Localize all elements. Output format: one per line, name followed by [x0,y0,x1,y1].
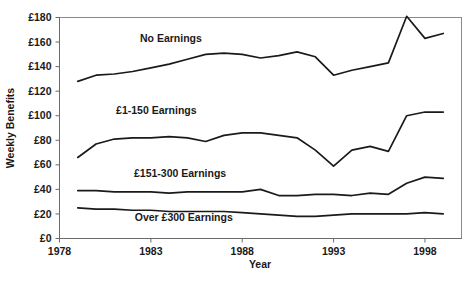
series-label: No Earnings [140,32,202,44]
y-tick-label: £140 [28,60,52,72]
y-tick-label: £120 [28,85,52,97]
x-tick-label: 1983 [139,245,163,257]
y-tick-label: £180 [28,11,52,23]
y-axis-title: Weekly Benefits [4,88,16,168]
line-chart: £0£20£40£60£80£100£120£140£160£180 19781… [0,0,474,285]
x-axis-title: Year [249,258,271,270]
x-tick-label: 1998 [413,245,437,257]
y-tick-label: £0 [40,232,52,244]
y-tick-label: £20 [34,208,52,220]
series-label: £151-300 Earnings [134,167,226,179]
y-tick-label: £160 [28,36,52,48]
x-tick-label: 1993 [322,245,346,257]
series-label: £1-150 Earnings [116,104,197,116]
y-tick-label: £80 [34,134,52,146]
chart-container: £0£20£40£60£80£100£120£140£160£180 19781… [0,0,474,285]
y-tick-label: £100 [28,109,52,121]
y-tick-label: £60 [34,158,52,170]
y-tick-label: £40 [34,183,52,195]
x-tick-label: 1988 [231,245,255,257]
x-tick-label: 1978 [48,245,72,257]
series-label: Over £300 Earnings [135,211,233,223]
chart-background [0,0,474,285]
